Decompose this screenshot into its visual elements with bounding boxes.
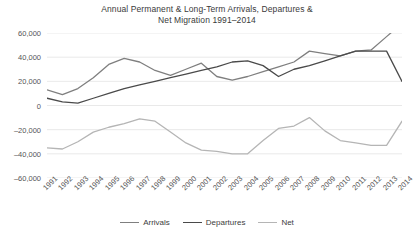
chart-title-line-1: Annual Permanent & Long-Term Arrivals, D… [0,4,414,15]
legend-item-label: Arrivals [143,218,170,227]
y-axis-tick-label: 40,000 [18,53,41,62]
series-lines [47,33,402,178]
y-axis-tick-label: 0 [37,101,41,110]
legend-item-departures[interactable]: Departures [183,218,246,227]
legend-line-icon [120,222,139,223]
y-axis-tick-label: 20,000 [18,77,41,86]
chart-title-line-2: Net Migration 1991–2014 [0,15,414,26]
x-axis: 1991199219931994199519961997199819992000… [47,180,402,214]
y-axis: 60,00040,00020,0000–20,000–40,000–60,000 [0,33,45,178]
legend-line-icon [258,222,277,223]
legend-line-icon [183,222,202,223]
y-axis-tick-label: –20,000 [14,125,41,134]
chart-legend: ArrivalsDeparturesNet [0,218,414,227]
y-axis-tick-label: 60,000 [18,29,41,38]
plot-area [47,33,402,178]
legend-item-arrivals[interactable]: Arrivals [120,218,170,227]
legend-item-label: Net [281,218,293,227]
y-axis-tick-label: –40,000 [14,149,41,158]
legend-item-net[interactable]: Net [258,218,293,227]
migration-line-chart: Annual Permanent & Long-Term Arrivals, D… [0,0,414,238]
y-axis-tick-label: –60,000 [14,174,41,183]
chart-title: Annual Permanent & Long-Term Arrivals, D… [0,4,414,26]
legend-item-label: Departures [206,218,246,227]
